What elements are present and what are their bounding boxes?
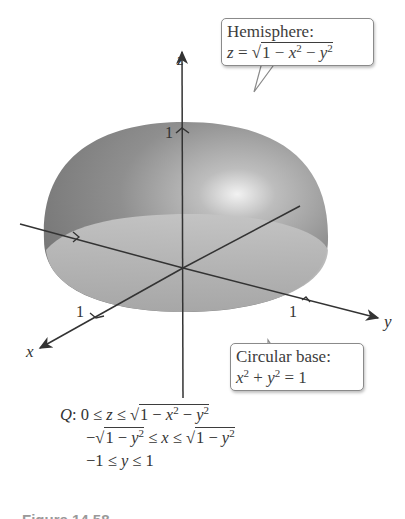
- sqrt-icon: √: [252, 43, 261, 62]
- hemisphere-figure: z y x 1 1 1 Hemisphere: z = √1 − x2 − y2…: [0, 0, 405, 400]
- figure-caption: Figure 14.58: [22, 511, 110, 519]
- base-callout-title: Circular base:: [236, 346, 358, 367]
- sqrt-icon: √: [130, 405, 139, 424]
- region-description: Q: 0 ≤ z ≤ √1 − x2 − y2 −√1 − y2 ≤ x ≤ √…: [60, 403, 235, 472]
- y-axis-label: y: [384, 312, 392, 332]
- hemisphere-callout-title: Hemisphere:: [227, 21, 368, 42]
- region-y-bounds: −1 ≤ y ≤ 1: [60, 449, 235, 472]
- region-x-bounds: −√1 − y2 ≤ x ≤ √1 − y2: [60, 426, 235, 449]
- z-axis: [182, 52, 183, 398]
- x-tick-label: 1: [76, 303, 84, 321]
- x-axis-label: x: [26, 342, 34, 362]
- hemisphere-callout: Hemisphere: z = √1 − x2 − y2: [221, 18, 374, 66]
- sqrt-icon: √: [186, 428, 195, 447]
- y-tick-label: 1: [289, 303, 297, 321]
- z-axis-label: z: [177, 50, 184, 70]
- base-equation: x2 + y2 = 1: [236, 367, 358, 388]
- region-z-bounds: Q: 0 ≤ z ≤ √1 − x2 − y2: [60, 403, 235, 426]
- circular-base-callout: Circular base: x2 + y2 = 1: [230, 343, 364, 391]
- z-tick-label: 1: [165, 124, 173, 142]
- circular-base: [46, 214, 328, 312]
- hemisphere-equation: z = √1 − x2 − y2: [227, 42, 368, 63]
